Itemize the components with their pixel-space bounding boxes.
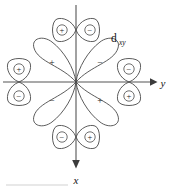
orbital-diagram-canvas: + − − + + − − + +: [0, 0, 171, 189]
scan-artifact: [6, 184, 68, 186]
x-axis-arrowhead-icon: [72, 160, 80, 169]
top-right-sign: −: [88, 25, 93, 35]
central-sign-upper-left: +: [49, 58, 54, 68]
central-lobe-lower-left: [34, 82, 76, 126]
orbital-diagram-figure: + − − + + − − + +: [0, 0, 171, 189]
right-top-sign: −: [127, 64, 132, 74]
left-top-sign: +: [17, 64, 22, 74]
central-sign-upper-right: −: [97, 58, 102, 68]
orbital-label: d xy: [111, 32, 126, 47]
central-sign-lower-left: −: [49, 96, 54, 106]
orbital-label-subscript: xy: [118, 38, 126, 47]
x-axis-label: x: [73, 174, 79, 186]
left-bottom-sign: −: [17, 91, 22, 101]
right-bottom-sign: +: [127, 91, 132, 101]
y-axis-arrowhead-icon: [150, 78, 158, 86]
central-lobe-upper-left: [34, 38, 76, 82]
orbital-label-base: d: [111, 32, 117, 44]
top-left-sign: +: [60, 25, 65, 35]
y-axis-label: y: [160, 77, 166, 89]
bottom-right-sign: +: [88, 132, 93, 142]
central-sign-lower-right: +: [97, 96, 102, 106]
bottom-left-sign: −: [60, 132, 65, 142]
